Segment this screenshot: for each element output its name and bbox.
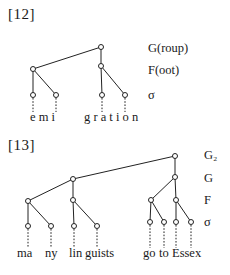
tree-12-edges	[33, 47, 125, 112]
node-syl-3	[100, 93, 105, 98]
node-sigma-1	[26, 224, 31, 229]
node-sigma-3	[72, 224, 77, 229]
node-sigma-7	[174, 220, 179, 225]
node-g-right	[173, 175, 178, 180]
node-syl-1	[31, 93, 36, 98]
node-f-3	[149, 198, 154, 203]
node-f-1	[26, 199, 31, 204]
node-sigma-4	[95, 224, 100, 229]
node-g-left	[71, 177, 76, 182]
node-g2	[173, 154, 178, 159]
node-syl-4	[123, 93, 128, 98]
node-sigma-2	[49, 224, 54, 229]
prosodic-trees	[0, 0, 230, 275]
node-sigma-5	[148, 220, 153, 225]
node-f-2	[71, 198, 76, 203]
node-sigma-8	[189, 220, 194, 225]
node-foot-left	[31, 67, 36, 72]
node-f-4	[174, 198, 179, 203]
node-foot-right	[99, 64, 104, 69]
node-group	[99, 45, 104, 50]
tree-12-nodes	[31, 45, 128, 98]
node-sigma-6	[162, 220, 167, 225]
tree-13-edges	[28, 156, 191, 248]
tree-13-nodes	[26, 154, 194, 229]
node-syl-2	[54, 93, 59, 98]
